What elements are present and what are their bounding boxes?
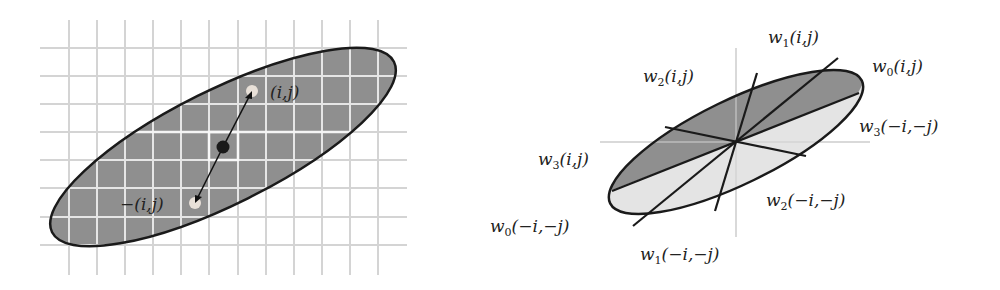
label-w1-neg: w1(−i,−j) bbox=[640, 244, 719, 267]
left-panel: (i,j) −(i,j) bbox=[27, 11, 420, 283]
label-w0-neg: w0(−i,−j) bbox=[490, 216, 569, 239]
label-w3-neg: w3(−i,−j) bbox=[859, 116, 938, 139]
label-w1-pos: w1(i,j) bbox=[768, 27, 819, 50]
label-neg-point: −(i,j) bbox=[120, 194, 164, 214]
right-panel: w1(i,j) w0(i,j) w2(i,j) w3(−i,−j) w3(i,j… bbox=[490, 10, 938, 267]
diagram-canvas: (i,j) −(i,j) w1(i,j) w0(i,j) w2(i,j) w3(… bbox=[0, 0, 1000, 290]
label-w2-pos: w2(i,j) bbox=[643, 66, 694, 89]
label-w2-neg: w2(−i,−j) bbox=[766, 190, 845, 213]
label-w3-pos: w3(i,j) bbox=[538, 149, 589, 172]
label-w0-pos: w0(i,j) bbox=[872, 56, 923, 79]
center-dot bbox=[217, 141, 230, 154]
label-pos-point: (i,j) bbox=[270, 82, 299, 102]
